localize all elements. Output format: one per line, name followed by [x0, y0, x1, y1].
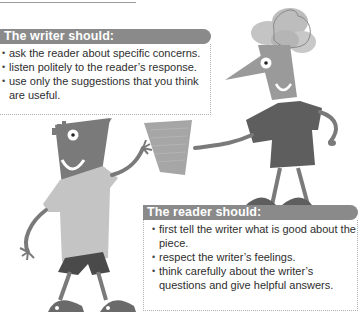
bullet-icon: •: [152, 264, 155, 278]
writer-guidelines-list: • ask the reader about specific concerns…: [0, 44, 210, 106]
reader-panel-body: • first tell the writer what is good abo…: [143, 220, 358, 311]
writer-figure-illustration: [20, 118, 152, 312]
bullet-icon: •: [152, 222, 155, 236]
list-item-text: respect the writer’s feelings.: [159, 251, 296, 263]
list-item: • think carefully about the writer’s que…: [150, 264, 357, 292]
writer-panel-title: The writer should:: [0, 29, 211, 44]
bullet-icon: •: [152, 250, 155, 264]
list-item-text: ask the reader about specific concerns.: [9, 47, 200, 59]
reader-guidelines-list: • first tell the writer what is good abo…: [144, 220, 357, 296]
list-item-text: think carefully about the writer’s quest…: [159, 265, 333, 291]
list-item: • ask the reader about specific concerns…: [0, 46, 210, 60]
list-item: • respect the writer’s feelings.: [150, 250, 357, 264]
bullet-icon: •: [2, 60, 5, 74]
reader-guidelines-panel: The reader should: • first tell the writ…: [143, 205, 358, 311]
writer-panel-body: • ask the reader about specific concerns…: [0, 44, 211, 115]
list-item: • use only the suggestions that you thin…: [0, 74, 210, 102]
list-item: • first tell the writer what is good abo…: [150, 222, 357, 250]
list-item: • listen politely to the reader’s respon…: [0, 60, 210, 74]
list-item-text: use only the suggestions that you think …: [9, 75, 199, 101]
writer-guidelines-panel: The writer should: • ask the reader abou…: [0, 29, 211, 115]
reader-panel-title: The reader should:: [143, 205, 358, 220]
list-item-text: first tell the writer what is good about…: [159, 223, 356, 249]
reader-figure-illustration: [195, 8, 336, 205]
bullet-icon: •: [2, 46, 5, 60]
bullet-icon: •: [2, 74, 5, 88]
list-item-text: listen politely to the reader’s response…: [9, 61, 197, 73]
